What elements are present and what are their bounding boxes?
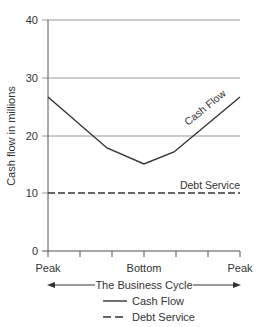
legend-label-debt-service: Debt Service (132, 311, 195, 323)
x-axis-label: The Business Cycle (95, 279, 192, 291)
cash-flow-annotation: Cash Flow (182, 87, 228, 128)
y-tick-label: 30 (26, 72, 38, 84)
arrow-right-icon (233, 282, 241, 288)
x-tick-label-peak-right: Peak (227, 262, 253, 274)
x-tick-label-bottom: Bottom (127, 262, 162, 274)
debt-service-annotation: Debt Service (180, 179, 240, 191)
y-tick-label: 10 (26, 187, 38, 199)
axes (42, 20, 240, 257)
y-tick-label: 40 (26, 14, 38, 26)
y-axis-label: Cash flow in millions (5, 86, 17, 186)
legend: Cash Flow Debt Service (103, 295, 195, 323)
y-tick-label: 20 (26, 130, 38, 142)
business-cycle-chart: 40 30 20 10 0 Cash flow in millions Cash… (0, 0, 261, 327)
legend-label-cash-flow: Cash Flow (132, 295, 184, 307)
business-cycle-arrow: The Business Cycle (47, 279, 241, 291)
x-tick-label-peak-left: Peak (35, 262, 61, 274)
y-tick-label: 0 (32, 245, 38, 257)
arrow-left-icon (47, 282, 55, 288)
